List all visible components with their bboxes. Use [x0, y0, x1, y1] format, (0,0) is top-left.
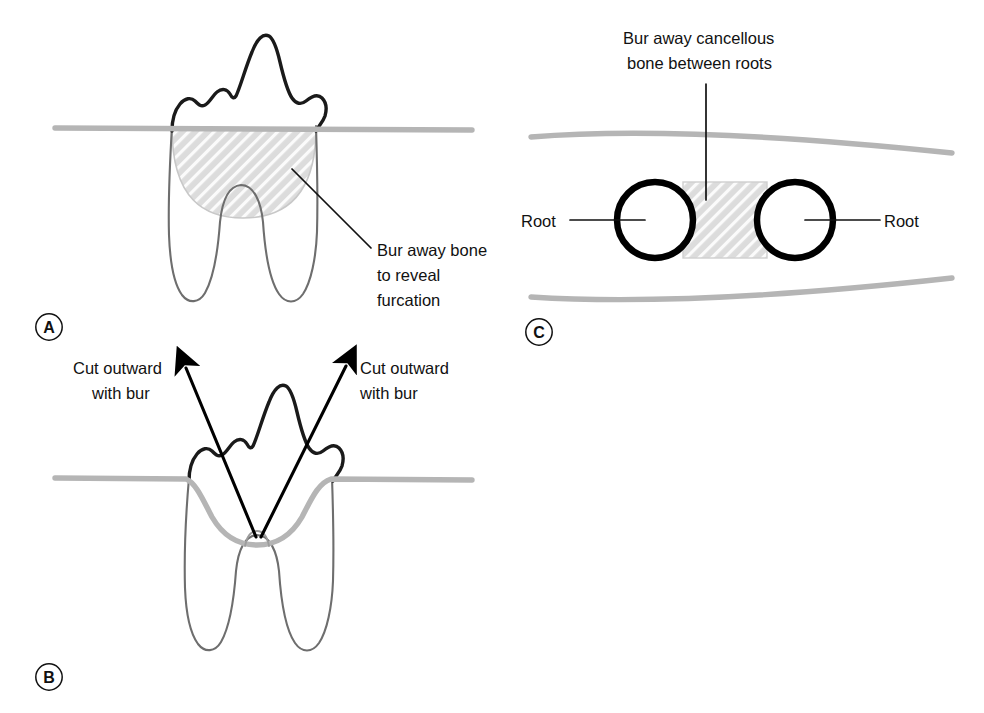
panel-b-annotation-left-line1: Cut outward: [73, 359, 162, 377]
panel-a-bone-crest-line: [55, 128, 472, 130]
figure-background: [0, 0, 984, 713]
panel-c-annotation-line2: bone between roots: [627, 54, 772, 72]
figure-root: Bur away bone to reveal furcation A: [0, 0, 984, 713]
panel-b-annotation-right-line2: with bur: [359, 384, 418, 402]
panel-a-annotation-line2: to reveal: [377, 266, 440, 284]
panel-c-label-root-left: Root: [521, 212, 556, 230]
panel-a-annotation-line1: Bur away bone: [377, 241, 487, 259]
panel-c-label-root-right: Root: [884, 212, 919, 230]
panel-c-letter-badge: C: [526, 319, 552, 345]
dental-furcation-figure: Bur away bone to reveal furcation A: [0, 0, 984, 713]
panel-b-letter-badge: B: [36, 664, 62, 690]
panel-a-letter-badge: A: [36, 314, 62, 340]
panel-b-letter: B: [43, 669, 55, 686]
panel-c-letter: C: [533, 324, 545, 341]
panel-b-annotation-left-line2: with bur: [91, 384, 150, 402]
panel-a-letter: A: [43, 319, 55, 336]
panel-a-annotation-line3: furcation: [377, 291, 440, 309]
panel-c-annotation-line1: Bur away cancellous: [623, 29, 774, 47]
panel-b-annotation-right-line1: Cut outward: [360, 359, 449, 377]
